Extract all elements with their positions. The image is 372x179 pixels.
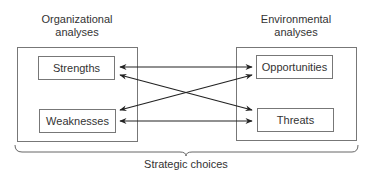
brace-icon [15, 145, 358, 156]
connections-layer [0, 0, 372, 179]
strategic-choices-label: Strategic choices [126, 158, 246, 170]
